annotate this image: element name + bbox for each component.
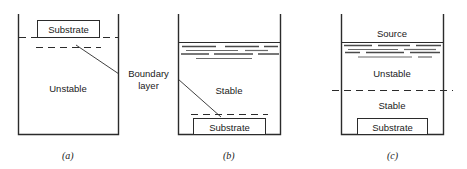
panel-c-source-label: Source — [352, 28, 432, 39]
panel-b-container — [178, 14, 281, 135]
boundary-layer-callout-line1: Boundary — [119, 68, 178, 80]
panel-b-region-label-stable: Stable — [189, 85, 269, 96]
panel-c-figure-label: (c) — [387, 150, 398, 161]
boundary-layer-callout-line2: layer — [119, 80, 178, 92]
panel-b-vessel-outline — [179, 14, 281, 135]
panel-c-region-label-stable: Stable — [352, 100, 432, 111]
panel-a-callout-leader — [76, 45, 119, 74]
panel-a-substrate-label: Substrate — [38, 24, 100, 35]
figure-container: .wall{stroke:#2b2b2b;stroke-width:1.4;fi… — [0, 0, 467, 169]
panel-c-region-label-unstable: Unstable — [352, 68, 432, 79]
boundary-layer-callout: Boundary layer — [119, 68, 178, 91]
panel-a-region-label-unstable: Unstable — [28, 83, 108, 94]
panel-b-figure-label: (b) — [223, 150, 235, 161]
panel-c-striations — [344, 46, 441, 58]
panel-b-striations — [181, 47, 279, 59]
panel-c-substrate-label: Substrate — [358, 122, 428, 133]
panel-b-substrate-label: Substrate — [194, 122, 266, 133]
panel-a-figure-label: (a) — [62, 150, 74, 161]
